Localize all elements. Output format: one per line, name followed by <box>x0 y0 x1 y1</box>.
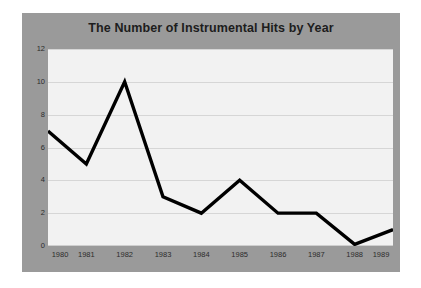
plot-area <box>48 49 393 246</box>
y-tick-label-8: 8 <box>23 111 45 119</box>
x-tick-label-1981: 1981 <box>69 251 103 259</box>
y-tick-label-0: 0 <box>23 242 45 250</box>
x-tick-label-1984: 1984 <box>184 251 218 259</box>
y-tick-label-12: 12 <box>23 45 45 53</box>
series-line-chart <box>48 49 393 246</box>
y-tick-label-2: 2 <box>23 209 45 217</box>
x-tick-label-1982: 1982 <box>108 251 142 259</box>
y-axis-tick-labels: 024681012 <box>22 49 45 246</box>
x-tick-label-1983: 1983 <box>146 251 180 259</box>
y-tick-label-4: 4 <box>23 177 45 185</box>
chart-title: The Number of Instrumental Hits by Year <box>22 21 400 35</box>
chart-page: The Number of Instrumental Hits by Year … <box>0 0 421 288</box>
x-tick-label-1989: 1989 <box>364 251 398 259</box>
x-tick-label-1987: 1987 <box>299 251 333 259</box>
chart-panel: The Number of Instrumental Hits by Year … <box>22 13 400 272</box>
x-tick-label-1985: 1985 <box>223 251 257 259</box>
series-line-path <box>48 82 393 245</box>
y-tick-label-6: 6 <box>23 144 45 152</box>
y-tick-label-10: 10 <box>23 78 45 86</box>
x-axis-tick-labels: 1980198119821983198419851986198719881989 <box>48 251 393 265</box>
x-tick-label-1986: 1986 <box>261 251 295 259</box>
